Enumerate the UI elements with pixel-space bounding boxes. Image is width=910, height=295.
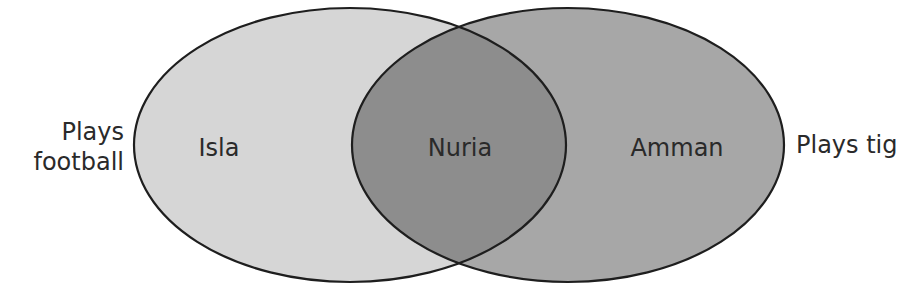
region-tig-only-amman: Amman: [630, 133, 723, 163]
set-label-plays-football: Plays football: [33, 117, 124, 177]
region-both-nuria: Nuria: [428, 133, 492, 163]
set-label-line1: Plays: [33, 117, 124, 147]
set-label-line2: football: [33, 147, 124, 177]
region-football-only-isla: Isla: [199, 133, 240, 163]
set-label-plays-tig: Plays tig: [796, 130, 898, 160]
